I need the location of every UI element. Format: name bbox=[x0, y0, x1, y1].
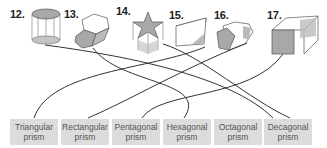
label-hexagonal-prism: Hexagonalprism bbox=[163, 119, 211, 145]
label-decagonal-prism: Decagonalprism bbox=[264, 119, 312, 145]
label-triangular-prism: Triangularprism bbox=[10, 119, 58, 145]
line-15-triangular bbox=[34, 47, 205, 118]
label-octagonal-prism: Octagonalprism bbox=[214, 119, 262, 145]
line-13-hexagonal bbox=[93, 48, 189, 118]
label-rectangular-prism: Rectangularprism bbox=[61, 119, 109, 145]
label-pentagonal-prism: Pentagonalprism bbox=[112, 119, 160, 145]
line-16-rectangular bbox=[88, 43, 247, 118]
